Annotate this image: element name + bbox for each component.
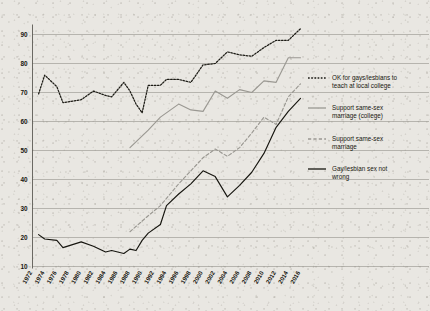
x-tick-label: 1974 [33, 269, 46, 285]
x-tick-label: 1994 [155, 269, 168, 285]
legend-label-3: Gay/lesbian sex not [332, 165, 388, 173]
x-tick-label: 2004 [215, 269, 228, 285]
data-series-lines [39, 29, 301, 254]
x-tick-label: 1978 [57, 269, 70, 285]
x-tick-label: 1998 [179, 269, 192, 285]
x-tick-label: 1992 [142, 269, 155, 285]
y-axis-tick-labels: 102030405060708090 [20, 31, 28, 270]
x-tick-label: 1984 [94, 269, 107, 285]
x-tick-label: 1988 [118, 269, 131, 285]
y-tick-label: 10 [20, 263, 28, 270]
legend-label-2: Support same-sex [332, 135, 384, 143]
x-tick-label: 2000 [191, 269, 204, 285]
legend-label-0-line2: teach at local college [332, 82, 391, 90]
x-tick-label: 2010 [252, 269, 265, 285]
y-tick-label: 40 [20, 176, 28, 183]
y-tick-label: 90 [20, 31, 28, 38]
legend-label-1: Support same-sex [332, 104, 384, 112]
y-tick-label: 80 [20, 60, 28, 67]
series-line-1 [130, 58, 301, 148]
x-tick-label: 2008 [240, 269, 253, 285]
y-tick-label: 70 [20, 89, 28, 96]
x-tick-label: 1996 [167, 269, 180, 285]
series-line-0 [39, 29, 301, 113]
x-tick-label: 2012 [264, 269, 277, 285]
y-tick-label: 50 [20, 147, 28, 154]
x-tick-label: 2006 [228, 269, 241, 285]
legend-label-0: OK for gays/lesbians to [332, 74, 398, 82]
x-tick-label: 2016 [289, 269, 302, 285]
y-tick-label: 60 [20, 118, 28, 125]
gridlines [33, 35, 430, 267]
y-tick-label: 20 [20, 234, 28, 241]
x-tick-label: 1982 [81, 269, 94, 285]
x-tick-label: 1980 [69, 269, 82, 285]
x-tick-label: 2014 [276, 269, 289, 285]
chart-svg: 102030405060708090 197219741976197819801… [0, 0, 430, 311]
x-tick-label: 1972 [21, 269, 34, 285]
y-tick-label: 30 [20, 205, 28, 212]
legend-label-2-line2: marriage [332, 143, 357, 151]
chart-legend: OK for gays/lesbians toteach at local co… [308, 74, 398, 181]
legend-label-1-line2: marriage (college) [332, 112, 383, 120]
trend-line-chart: 102030405060708090 197219741976197819801… [0, 0, 430, 311]
x-tick-label: 1990 [130, 269, 143, 285]
series-line-2 [130, 84, 301, 232]
x-tick-label: 1986 [106, 269, 119, 285]
legend-label-3-line2: wrong [331, 173, 350, 181]
x-tick-label: 2002 [203, 269, 216, 285]
x-tick-label: 1976 [45, 269, 58, 285]
x-axis-tick-labels: 1972197419761978198019821984198619881990… [21, 269, 302, 285]
